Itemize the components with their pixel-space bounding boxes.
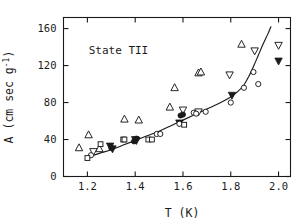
- x-tick-label: 1.8: [221, 180, 240, 192]
- x-tick-label: 1.2: [78, 180, 97, 192]
- data-point-circle-filled: [180, 112, 185, 117]
- y-tick-label: 160: [38, 22, 57, 34]
- data-point-circle-open: [251, 69, 256, 74]
- x-axis-label: T (K): [165, 206, 200, 220]
- scatter-plot: 1.21.41.61.82.004080120160T (K)A (cm sec…: [0, 0, 305, 223]
- axes-layer: [64, 18, 291, 177]
- data-point-square-open: [98, 142, 103, 147]
- x-tick-label: 1.4: [126, 180, 145, 192]
- y-tick-label: 40: [44, 133, 57, 145]
- data-point-triangle-down-filled: [275, 58, 282, 65]
- data-point-circle-open: [228, 100, 233, 105]
- data-point-circle-open: [241, 85, 246, 90]
- series-open-triangle-down: [90, 42, 283, 155]
- series-filled-circle: [109, 112, 186, 150]
- data-point-circle-filled: [109, 145, 114, 150]
- data-point-circle-open: [256, 81, 261, 86]
- data-point-triangle-up-open: [171, 84, 178, 91]
- data-points-layer: [75, 40, 282, 160]
- y-axis-label: A (cm sec g-1): [2, 51, 16, 144]
- figure-container: 1.21.41.61.82.004080120160T (K)A (cm sec…: [0, 0, 305, 223]
- data-point-circle-open: [177, 121, 182, 126]
- data-point-triangle-up-open: [121, 115, 128, 122]
- data-point-triangle-down-open: [251, 48, 258, 55]
- data-point-triangle-up-open: [238, 40, 245, 47]
- x-tick-label: 2.0: [269, 180, 288, 192]
- data-point-square-open: [150, 137, 155, 142]
- data-point-circle-filled: [134, 136, 139, 141]
- series-open-circle: [88, 69, 260, 157]
- data-point-triangle-up-open: [75, 144, 82, 151]
- x-tick-label: 1.6: [173, 180, 192, 192]
- y-tick-label: 80: [44, 96, 57, 108]
- data-point-circle-open: [203, 109, 208, 114]
- data-point-square-open: [182, 122, 187, 127]
- plot-annotation: State TII: [89, 44, 149, 57]
- data-point-triangle-up-open: [135, 116, 142, 123]
- data-point-circle-open: [158, 131, 163, 136]
- data-point-triangle-up-open: [85, 131, 92, 138]
- data-point-square-open: [122, 137, 127, 142]
- plot-frame: [64, 18, 291, 177]
- data-point-triangle-down-open: [275, 42, 282, 49]
- y-tick-label: 120: [38, 59, 57, 71]
- data-point-triangle-up-open: [166, 103, 173, 110]
- data-point-square-open: [85, 156, 90, 161]
- data-point-circle-open: [194, 111, 199, 116]
- y-tick-label: 0: [50, 170, 56, 182]
- svg-text:A (cm sec g-1): A (cm sec g-1): [2, 51, 16, 144]
- axis-labels-layer: 1.21.41.61.82.004080120160T (K)A (cm sec…: [2, 22, 288, 220]
- data-point-triangle-down-open: [226, 72, 233, 79]
